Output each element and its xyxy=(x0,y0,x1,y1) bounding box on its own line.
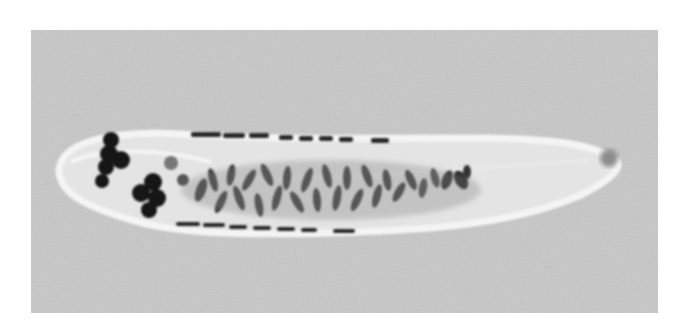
flatworm-illustration xyxy=(31,30,658,313)
tail-spot xyxy=(600,149,618,167)
tissue-haze xyxy=(181,160,481,220)
specimen-photo xyxy=(31,30,658,313)
